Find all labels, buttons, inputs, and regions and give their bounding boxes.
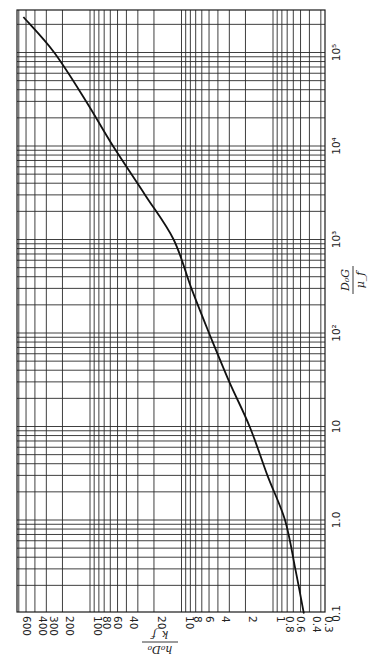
- h-tick-label: 1: [275, 616, 287, 623]
- h-tick-label: 0.4: [311, 616, 323, 633]
- h-tick-label: 300: [48, 616, 60, 636]
- v-tick-label: 10²: [330, 324, 342, 342]
- chart: 0.30.40.60.81246810204060801002003004006…: [0, 0, 374, 666]
- v-tick-label: 10: [330, 420, 342, 433]
- h-tick-label: 100: [92, 616, 104, 636]
- v-tick-label: 0.1: [330, 605, 342, 622]
- h-axis-title-denominator: k_f: [150, 628, 168, 641]
- h-axis-title: h₀D₀ k_f: [142, 628, 178, 656]
- h-axis-title-numerator: h₀D₀: [147, 643, 172, 656]
- h-axis-tick-labels: 0.30.40.60.81246810204060801002003004006…: [21, 616, 335, 636]
- v-axis-title-denominator: μ_f: [354, 270, 367, 289]
- h-tick-label: 0.6: [295, 616, 307, 633]
- h-tick-label: 10: [184, 616, 196, 629]
- v-tick-label: 1.0: [330, 512, 342, 529]
- h-tick-label: 6: [204, 616, 216, 623]
- h-tick-label: 60: [112, 616, 124, 629]
- h-tick-label: 4: [220, 616, 232, 623]
- v-axis-title-numerator: D₀G: [339, 269, 352, 292]
- h-tick-label: 2: [247, 616, 259, 623]
- h-tick-label: 40: [128, 616, 140, 629]
- v-axis-title: D₀G μ_f: [339, 266, 367, 294]
- v-tick-label: 10³: [330, 231, 342, 249]
- v-tick-label: 10⁴: [330, 137, 342, 155]
- v-tick-label: 10⁵: [330, 44, 342, 62]
- h-tick-label: 600: [21, 616, 33, 636]
- h-tick-label: 400: [37, 616, 49, 636]
- h-tick-label: 200: [64, 616, 76, 636]
- plot-frame: [17, 10, 325, 612]
- vertical-gridlines: [19, 10, 321, 612]
- v-axis-tick-labels: 0.11.01010²10³10⁴10⁵: [330, 44, 342, 622]
- h-tick-label: 20: [156, 616, 168, 629]
